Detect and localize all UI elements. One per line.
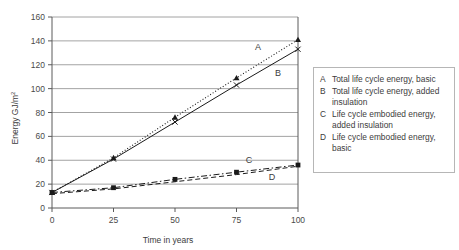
y-tick-label: 0 [40,203,45,213]
y-tick-label: 80 [36,108,46,118]
y-tick-label: 120 [31,60,45,70]
x-tick-label: 75 [232,215,242,225]
y-tick-label: 60 [36,131,46,141]
chart-legend: A Total life cycle energy, basic B Total… [313,67,455,173]
y-tick-label: 40 [36,155,46,165]
y-axis-title: Energy GJ/m2 [10,91,20,145]
x-tick-label: 50 [170,215,180,225]
svg-text:Energy GJ/m2: Energy GJ/m2 [10,91,20,145]
data-point-c [111,185,116,190]
legend-key: A [320,74,332,85]
svg-text:Time in years: Time in years [143,235,194,245]
data-point-a [295,37,301,42]
y-tick-label: 20 [36,179,46,189]
y-tick-label: 100 [31,84,45,94]
legend-key: D [320,132,332,143]
curve-label-d: D [269,172,276,182]
data-point-c [50,190,55,195]
x-tick-label: 0 [50,215,55,225]
legend-list: A Total life cycle energy, basic B Total… [320,74,449,154]
legend-item: B Total life cycle energy, added insulat… [320,86,449,108]
y-axis-ticks: 020406080100120140160 [31,12,52,213]
data-point-a [172,114,178,119]
x-tick-label: 100 [291,215,305,225]
gridlines [52,17,298,184]
x-tick-label: 25 [109,215,119,225]
legend-item: C Life cycle embodied energy, added insu… [320,109,449,131]
legend-label: Life cycle embodied energy, basic [332,132,449,154]
data-point-c [234,170,239,175]
x-axis-title: Time in years [143,235,194,245]
figure-root: 020406080100120140160 0255075100 ABCD Ti… [0,0,459,250]
y-tick-label: 160 [31,12,45,22]
curve-label-b: B [275,68,281,78]
data-point-b [234,82,239,87]
curve-label-c: C [246,155,253,165]
y-tick-label: 140 [31,36,45,46]
legend-label: Total life cycle energy, basic [332,74,449,85]
line-chart-svg: 020406080100120140160 0255075100 ABCD Ti… [0,0,310,250]
data-point-a [234,75,240,80]
data-point-c [173,177,178,182]
legend-key: B [320,86,332,97]
series-inline-labels: ABCD [246,42,281,182]
legend-item: D Life cycle embodied energy, basic [320,132,449,154]
curve-label-a: A [255,42,261,52]
chart-plot-area: 020406080100120140160 0255075100 ABCD Ti… [0,0,310,250]
legend-label: Life cycle embodied energy, added insula… [332,109,449,131]
data-point-c [296,163,301,168]
legend-key: C [320,109,332,120]
x-axis-ticks: 0255075100 [50,208,306,225]
data-point-b [172,119,177,124]
legend-label: Total life cycle energy, added insulatio… [332,86,449,108]
legend-item: A Total life cycle energy, basic [320,74,449,85]
